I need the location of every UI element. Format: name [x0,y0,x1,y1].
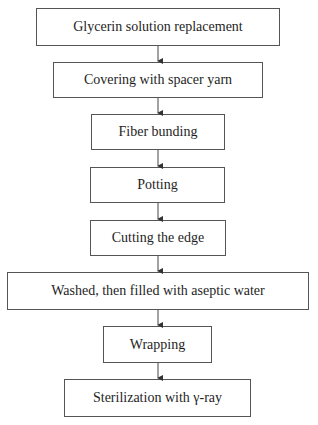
flow-arrows [0,0,318,425]
